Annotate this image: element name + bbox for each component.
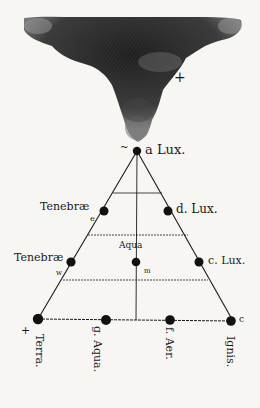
node-apex bbox=[133, 147, 141, 155]
label-d-lux: d. Lux. bbox=[176, 202, 218, 216]
terra-mark: + bbox=[21, 324, 30, 337]
node-right-upper bbox=[164, 207, 173, 216]
node-ignis bbox=[226, 316, 236, 326]
label-ignis: Ignis. bbox=[224, 336, 237, 367]
node-right-middle bbox=[195, 258, 204, 267]
label-tenebrae-upper: Tenebræ bbox=[40, 200, 89, 213]
node-terra bbox=[33, 314, 43, 324]
node-f-aer bbox=[165, 315, 175, 325]
diagram-canvas: + ~ a Lux. Tenebræ e d. Lux. Aqua m Tene… bbox=[0, 0, 260, 408]
label-c-lux: c. Lux. bbox=[208, 254, 245, 267]
label-apex-lux: a Lux. bbox=[145, 142, 185, 157]
label-f-aer: f. Aer. bbox=[163, 327, 176, 360]
node-left-middle bbox=[66, 257, 75, 266]
node-g-aqua bbox=[101, 315, 111, 325]
left-middle-mark: w bbox=[56, 269, 62, 277]
label-terra: Terra. bbox=[33, 334, 46, 368]
node-dots bbox=[33, 147, 236, 326]
cloud-illustration bbox=[24, 17, 242, 142]
left-upper-mark: e bbox=[90, 214, 95, 223]
label-tenebrae-middle: Tenebræ bbox=[14, 251, 63, 264]
triangle-frame bbox=[38, 151, 233, 321]
apex-mark: ~ bbox=[120, 141, 128, 152]
cloud-mark: + bbox=[174, 69, 186, 85]
ignis-mark: c bbox=[239, 314, 244, 324]
label-aqua-center: Aqua bbox=[119, 240, 142, 250]
node-left-upper bbox=[100, 207, 109, 216]
node-center bbox=[132, 258, 141, 267]
center-mark: m bbox=[144, 267, 151, 275]
label-g-aqua: g. Aqua. bbox=[91, 326, 104, 372]
